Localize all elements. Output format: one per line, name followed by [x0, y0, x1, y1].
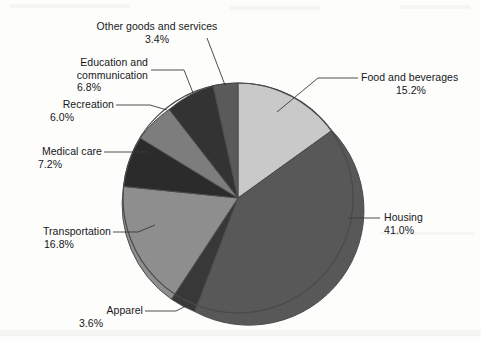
pie-label-food-and-beverages: Food and beverages 15.2% [361, 71, 461, 96]
pie-label-medical-care-text: Medical care [12, 145, 102, 158]
pie-label-housing-value: 41.0% [384, 224, 423, 237]
pie-chart-figure: Food and beverages 15.2% Housing 41.0% A… [0, 0, 481, 341]
leader-line-other-goods-and-services [207, 38, 225, 85]
pie-label-recreation-value: 6.0% [24, 111, 114, 124]
pie-label-food-and-beverages-value: 15.2% [361, 84, 461, 97]
pie-label-housing: Housing 41.0% [384, 211, 423, 236]
pie-label-apparel: Apparel 3.6% [47, 304, 143, 329]
pie-label-other-goods-and-services-value: 3.4% [92, 33, 222, 46]
pie-label-transportation-text: Transportation [17, 225, 111, 238]
pie-label-other-goods-and-services-text: Other goods and services [92, 20, 222, 33]
pie-label-education-and-communication-text-line1: Education and [42, 56, 148, 69]
pie-label-medical-care: Medical care 7.2% [12, 145, 102, 170]
pie-label-education-and-communication-value: 6.8% [42, 81, 148, 94]
pie-label-housing-text: Housing [384, 211, 423, 224]
pie-label-apparel-text: Apparel [47, 304, 143, 317]
pie-chart-canvas [0, 0, 481, 341]
leader-line-recreation [116, 105, 167, 110]
pie-label-recreation: Recreation 6.0% [24, 98, 114, 123]
pie-label-recreation-text: Recreation [24, 98, 114, 111]
pie-label-transportation: Transportation 16.8% [17, 225, 111, 250]
pie-label-food-and-beverages-text: Food and beverages [361, 71, 461, 84]
pie-label-other-goods-and-services: Other goods and services 3.4% [92, 20, 222, 45]
pie-label-medical-care-value: 7.2% [12, 158, 102, 171]
pie-label-education-and-communication: Education and communication 6.8% [42, 56, 148, 94]
pie-label-transportation-value: 16.8% [17, 238, 111, 251]
pie-label-apparel-value: 3.6% [47, 317, 143, 330]
pie-label-education-and-communication-text-line2: communication [42, 69, 148, 82]
